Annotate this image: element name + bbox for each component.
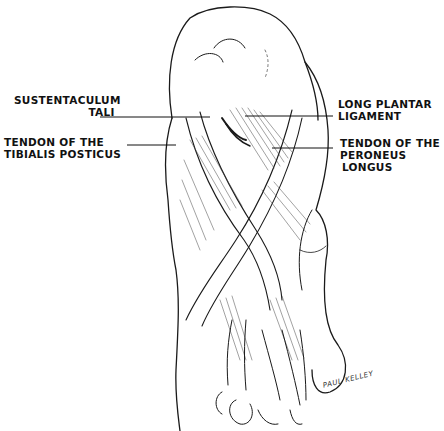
label-peroneus-longus: TENDON OF THE PERONEUS LONGUS [340, 137, 440, 173]
label-peroneus-longus-line3: LONGUS [340, 161, 440, 173]
label-tibialis-posticus-line2: TIBIALIS POSTICUS [4, 148, 121, 160]
label-tibialis-posticus: TENDON OF THE TIBIALIS POSTICUS [4, 136, 121, 160]
label-sustentaculum-tali: SUSTENTACULUM TALI [14, 94, 121, 118]
label-peroneus-longus-line1: TENDON OF THE [340, 137, 440, 149]
label-long-plantar-ligament-line2: LIGAMENT [338, 110, 432, 122]
label-peroneus-longus-line2: PERONEUS [340, 149, 440, 161]
foot-illustration [0, 0, 444, 431]
label-long-plantar-ligament-line1: LONG PLANTAR [338, 98, 432, 110]
label-sustentaculum-tali-line2: TALI [14, 106, 121, 118]
label-long-plantar-ligament: LONG PLANTAR LIGAMENT [338, 98, 432, 122]
label-tibialis-posticus-line1: TENDON OF THE [4, 136, 121, 148]
calcaneus-outline [169, 7, 318, 120]
foot-medial-outline [166, 118, 180, 431]
label-sustentaculum-tali-line1: SUSTENTACULUM [14, 94, 121, 106]
